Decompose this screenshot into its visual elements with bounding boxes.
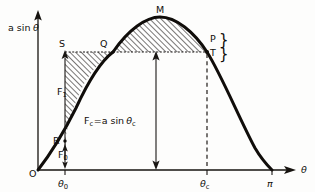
x-tick-label-pi: π <box>267 178 273 189</box>
origin-label: O <box>29 168 36 179</box>
figure-canvas: a sinθ θ O θ0 θc π S Q M P T } } R F1 F0… <box>0 0 315 192</box>
label-point-q: Q <box>100 38 107 49</box>
x-tick-label-theta0: θ0 <box>58 178 68 191</box>
x-tick-label-thetac: θc <box>200 178 210 191</box>
x-axis-label: θ <box>301 164 307 175</box>
label-point-p: P <box>210 33 216 44</box>
label-point-s: S <box>59 38 65 49</box>
y-axis-label: a sinθ <box>8 22 39 33</box>
shaded-region-lower-triangle <box>65 52 113 158</box>
label-point-t: T <box>209 47 216 58</box>
label-point-m: M <box>156 4 164 15</box>
label-force-f0: F0 <box>58 149 68 162</box>
brace-t-icon: } <box>219 45 229 63</box>
sine-arch-figure: a sinθ θ O θ0 θc π S Q M P T } } R F1 F0… <box>0 0 315 192</box>
label-point-r: R <box>53 135 60 146</box>
x-tick-marks <box>65 170 272 175</box>
fc-measure-arrow <box>152 51 159 170</box>
label-formula-fc: Fc=a sinθc <box>84 115 136 128</box>
x-axis <box>38 166 296 174</box>
y-axis <box>34 10 42 170</box>
